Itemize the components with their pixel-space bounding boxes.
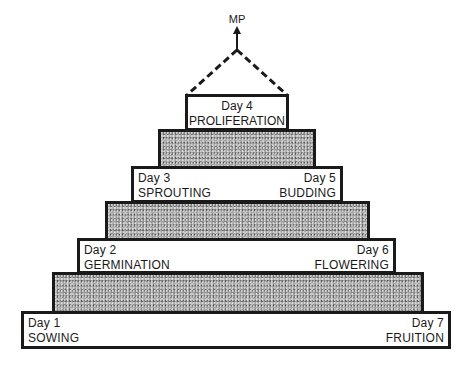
tier-day-1-day-7: Day 1 SOWING Day 7 FRUITION [21, 311, 451, 349]
day-2-label: Day 2 [84, 243, 116, 257]
fruition-label: FRUITION [386, 331, 444, 345]
day-4-label: Day 4 [188, 99, 286, 113]
germination-label: GERMINATION [84, 258, 170, 272]
flowering-label: FLOWERING [315, 258, 389, 272]
stone-band-3 [52, 272, 424, 314]
dashed-roof [187, 50, 287, 95]
day-7-label: Day 7 [412, 316, 444, 330]
sowing-label: SOWING [28, 331, 79, 345]
day-6-label: Day 6 [357, 243, 389, 257]
up-arrow-icon [233, 26, 241, 50]
stone-band-2 [105, 201, 370, 240]
tier-day-3-day-5: Day 3 SPROUTING Day 5 BUDDING [131, 166, 343, 203]
seven-day-pyramid-diagram: MP Day 4 PROLIFERATION Day 3 SPROUTING D… [0, 0, 471, 370]
sprouting-label: SPROUTING [138, 186, 211, 200]
day-1-label: Day 1 [28, 316, 60, 330]
day-5-label: Day 5 [304, 171, 336, 185]
day-3-label: Day 3 [138, 171, 170, 185]
budding-label: BUDDING [279, 186, 336, 200]
proliferation-label: PROLIFERATION [188, 114, 286, 128]
tier-day-2-day-6: Day 2 GERMINATION Day 6 FLOWERING [77, 238, 396, 274]
tier-day-4-proliferation: Day 4 PROLIFERATION [185, 94, 289, 131]
stone-band-1 [158, 129, 316, 168]
